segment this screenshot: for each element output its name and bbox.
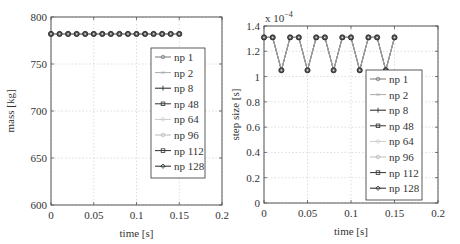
- legend-label: np 128: [174, 160, 205, 172]
- x-tick-label: 0.15: [385, 207, 405, 219]
- x-tick-label: 0.2: [215, 209, 229, 221]
- y-tick-label: 700: [31, 105, 48, 117]
- y-tick-label: 0.8: [246, 96, 260, 108]
- chart-1: 00.050.10.150.2600650700750800time [s]ma…: [4, 11, 229, 239]
- legend: np 1np 2np 8np 48np 64np 96np 112np 128: [151, 48, 205, 178]
- y-tick-label: 750: [31, 58, 48, 70]
- legend: np 1np 2np 8np 48np 64np 96np 112np 128: [366, 70, 422, 200]
- legend-label: np 96: [389, 151, 414, 163]
- x-tick-label: 0.2: [431, 207, 445, 219]
- legend-label: np 64: [389, 135, 414, 147]
- x-tick-label: 0.15: [170, 209, 190, 221]
- y-tick-label: 0: [255, 197, 261, 209]
- y-multiplier-label: x 10−4: [265, 10, 293, 24]
- x-tick-label: 0.05: [84, 209, 104, 221]
- y-axis-label: step size [s]: [229, 89, 241, 141]
- legend-label: np 112: [174, 145, 204, 157]
- y-tick-label: 0.6: [246, 121, 260, 133]
- legend-label: np 48: [174, 98, 199, 110]
- y-tick-label: 1: [255, 71, 261, 83]
- legend-label: np 8: [389, 104, 409, 116]
- legend-label: np 48: [389, 120, 414, 132]
- y-tick-label: 1.2: [246, 45, 260, 57]
- x-tick-label: 0: [261, 207, 267, 219]
- x-tick-label: 0: [48, 209, 54, 221]
- y-tick-label: 1.4: [246, 20, 260, 32]
- y-tick-label: 650: [31, 152, 48, 164]
- x-tick-label: 0.1: [344, 207, 358, 219]
- legend-label: np 2: [389, 89, 408, 101]
- x-axis-label: time [s]: [334, 225, 368, 237]
- legend-label: np 64: [174, 113, 199, 125]
- x-axis-label: time [s]: [120, 227, 154, 239]
- figure: 00.050.10.150.2600650700750800time [s]ma…: [0, 0, 460, 244]
- legend-label: np 96: [174, 129, 199, 141]
- legend-label: np 1: [174, 51, 193, 63]
- y-tick-label: 0.2: [246, 172, 260, 184]
- data-series: [48, 31, 181, 36]
- y-tick-label: 600: [31, 199, 48, 211]
- y-axis-label: mass [kg]: [4, 89, 16, 132]
- x-tick-label: 0.05: [298, 207, 318, 219]
- legend-label: np 8: [174, 82, 194, 94]
- legend-label: np 1: [389, 73, 408, 85]
- y-tick-label: 0.4: [246, 146, 260, 158]
- x-tick-label: 0.1: [130, 209, 144, 221]
- legend-label: np 128: [389, 182, 420, 194]
- legend-label: np 2: [174, 67, 193, 79]
- data-series: [261, 35, 397, 73]
- chart-2: 00.050.10.150.200.20.40.60.811.21.4time …: [229, 10, 445, 237]
- y-tick-label: 800: [31, 11, 48, 23]
- figure-canvas: 00.050.10.150.2600650700750800time [s]ma…: [0, 0, 460, 244]
- legend-label: np 112: [389, 167, 419, 179]
